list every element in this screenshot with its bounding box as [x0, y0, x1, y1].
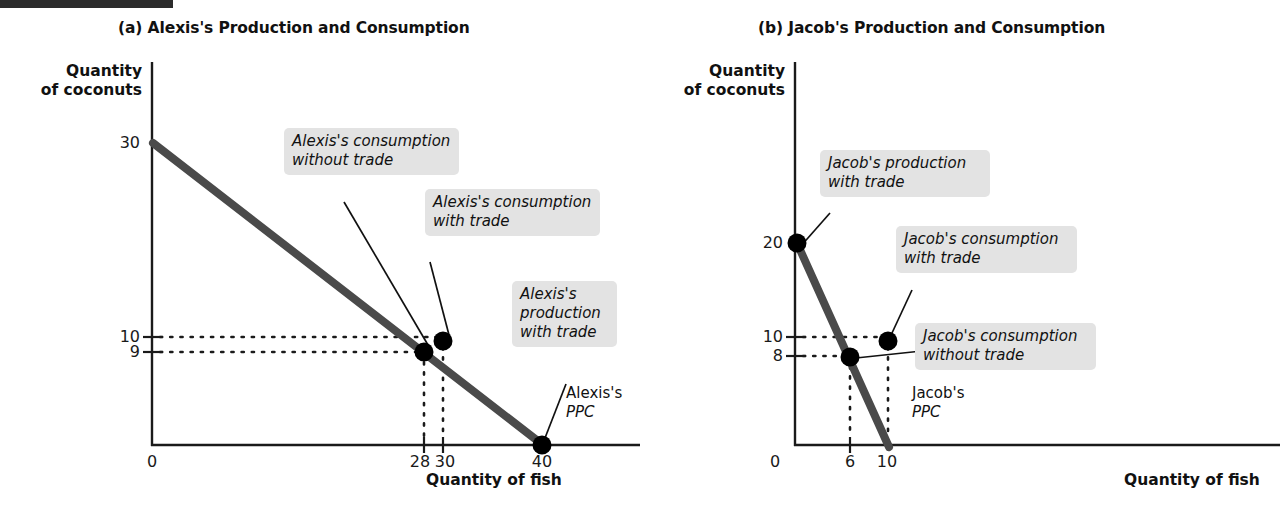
- panel-a-callout-production-with-trade: Alexis's production with trade: [512, 281, 617, 347]
- panel-b-ytick-label-10: 10: [717, 327, 783, 346]
- panel-a-callout-consumption-with-trade: Alexis's consumption with trade: [425, 189, 600, 236]
- panel-a-xtick-label-30: 30: [429, 452, 461, 471]
- panel-b-title: (b) Jacob's Production and Consumption: [758, 19, 1105, 37]
- panel-a-xtick-label-40: 40: [526, 452, 558, 471]
- panel-a-y-axis-label: Quantity of coconuts: [34, 62, 142, 100]
- panel-a-ytick-label-9: 9: [74, 342, 140, 361]
- panel-b-callout-consumption-without-trade: Jacob's consumption without trade: [915, 323, 1096, 370]
- panel-a-ytick-label-30: 30: [74, 133, 140, 152]
- panel-b-leader-consumption-with-trade: [892, 290, 912, 333]
- panel-b-point-consumption-without-trade: [841, 348, 860, 367]
- panel-a-ppc-curve-label: Alexis's PPC: [566, 384, 622, 422]
- panel-a-title: (a) Alexis's Production and Consumption: [118, 19, 470, 37]
- panel-a-callout-consumption-without-trade: Alexis's consumption without trade: [284, 128, 459, 175]
- panel-b-callout-consumption-with-trade: Jacob's consumption with trade: [896, 226, 1077, 273]
- panel-b-origin-label: 0: [758, 452, 792, 471]
- panel-a-origin-label: 0: [132, 452, 172, 471]
- panel-b-y-axis-label: Quantity of coconuts: [677, 62, 785, 100]
- panel-a-ppc-label-abbrev: PPC: [566, 403, 622, 422]
- panel-a-point-consumption-without-trade: [415, 343, 434, 362]
- panel-b-ytick-label-8: 8: [717, 346, 783, 365]
- panel-b-ppc-curve-label: Jacob's PPC: [912, 384, 965, 422]
- panel-b-ppc-label-owner: Jacob's: [912, 384, 965, 402]
- panel-a-point-consumption-with-trade: [434, 332, 453, 351]
- panel-b-point-production-with-trade: [788, 234, 807, 253]
- panel-a-leader-production-with-trade: [545, 384, 566, 438]
- panel-b-ppc-label-abbrev: PPC: [912, 403, 965, 422]
- panel-b-point-consumption-with-trade: [879, 332, 898, 351]
- figure-ppc-trade: (a) Alexis's Production and Consumption …: [0, 0, 1287, 518]
- panel-a-x-axis-label: Quantity of fish: [426, 471, 562, 490]
- panel-a-ppc-label-owner: Alexis's: [566, 384, 622, 402]
- panel-b-ppc-line: [797, 243, 889, 447]
- panel-b-ytick-label-20: 20: [717, 233, 783, 252]
- panel-a-leader-consumption-with-trade: [430, 262, 449, 335]
- panel-b-callout-production-with-trade: Jacob's production with trade: [820, 150, 990, 197]
- chart-vector-overlay: [0, 0, 1287, 518]
- panel-b-xtick-label-6: 6: [835, 452, 865, 471]
- panel-b-xtick-label-10: 10: [871, 452, 903, 471]
- panel-b-x-axis-label: Quantity of fish: [1124, 471, 1260, 490]
